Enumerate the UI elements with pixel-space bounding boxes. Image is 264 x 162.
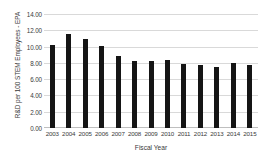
y-tick-label: 8.00 [16,59,42,66]
x-tick-label: 2008 [126,130,142,140]
x-tick-label: 2014 [225,130,241,140]
bar-slot [126,14,142,128]
x-tick-label: 2009 [143,130,159,140]
bar-slot [225,14,241,128]
bar-2009 [149,61,154,128]
plot-area [44,14,258,128]
y-tick-label: 2.00 [16,108,42,115]
x-tick-label: 2013 [209,130,225,140]
bar-slot [159,14,175,128]
bar-slot [77,14,93,128]
x-tick-label: 2006 [93,130,109,140]
bar-slot [110,14,126,128]
bar-slot [176,14,192,128]
bar-chart-figure: R&D per 100 STEM Employees - EPA 14.0012… [0,0,264,162]
y-axis-tick-labels: 14.0012.0010.008.006.004.002.000.00 [16,14,42,128]
bar-2004 [66,34,71,128]
y-tick-label: 14.00 [16,11,42,18]
x-tick-label: 2011 [176,130,192,140]
bar-slot [192,14,208,128]
bar-slot [60,14,76,128]
y-tick-label: 12.00 [16,27,42,34]
bar-2006 [99,46,104,128]
bar-2014 [231,63,236,128]
bar-2010 [165,60,170,128]
bar-slot [44,14,60,128]
bar-2012 [198,65,203,129]
bar-2003 [50,45,55,128]
y-tick-label: 10.00 [16,43,42,50]
x-tick-label: 2007 [110,130,126,140]
x-tick-label: 2004 [60,130,76,140]
bar-slot [93,14,109,128]
bar-2005 [83,39,88,128]
x-tick-label: 2005 [77,130,93,140]
y-tick-label: 0.00 [16,125,42,132]
bar-2013 [214,67,219,128]
y-tick-label: 6.00 [16,76,42,83]
x-tick-label: 2015 [242,130,258,140]
x-tick-label: 2003 [44,130,60,140]
bar-slot [143,14,159,128]
x-axis-title: Fiscal Year [44,144,258,151]
x-tick-label: 2010 [159,130,175,140]
bar-2011 [181,64,186,128]
bar-slot [242,14,258,128]
x-tick-label: 2012 [192,130,208,140]
bar-2008 [132,61,137,128]
y-tick-label: 4.00 [16,92,42,99]
bar-slot [209,14,225,128]
bar-2007 [116,56,121,128]
bar-2015 [247,65,252,128]
x-axis-tick-labels: 2003200420052006200720082009201020112012… [44,130,258,140]
bars-group [44,14,258,128]
